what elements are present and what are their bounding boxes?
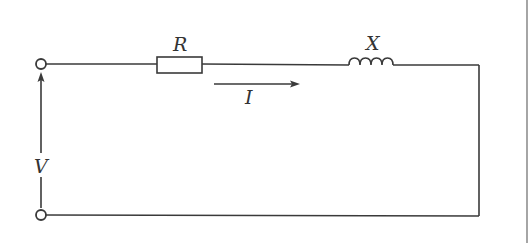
current-label: I xyxy=(244,86,253,108)
terminal-top-icon xyxy=(36,59,46,69)
voltage-label: V xyxy=(34,155,50,177)
wire-top-middle xyxy=(202,64,349,65)
inductor-symbol xyxy=(349,58,393,65)
resistor-label: R xyxy=(172,33,187,55)
terminal-bottom-icon xyxy=(36,210,46,220)
inductor-label: X xyxy=(364,32,381,54)
wire-bottom xyxy=(46,215,479,216)
resistor-symbol xyxy=(157,57,202,73)
series-rl-circuit-diagram: R X I V xyxy=(0,0,529,245)
